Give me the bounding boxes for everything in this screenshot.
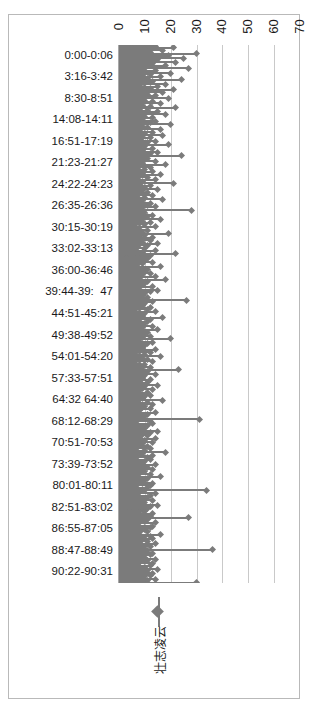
- data-point-marker: [196, 416, 203, 423]
- x-axis-tick-60: 60: [266, 14, 281, 40]
- data-point-marker: [154, 502, 161, 509]
- data-point-marker: [165, 230, 172, 237]
- data-point-marker: [157, 263, 164, 270]
- y-axis-tick-label: 49:38-49:52: [9, 330, 113, 341]
- data-line: [119, 582, 197, 583]
- data-series-layer: [119, 45, 299, 583]
- data-point-marker: [154, 326, 161, 333]
- y-axis-tick-label: 36:00-36:46: [9, 265, 113, 276]
- x-axis-tick-70: 70: [292, 14, 307, 40]
- data-point-marker: [154, 286, 161, 293]
- data-point-marker: [172, 59, 179, 66]
- data-point-marker: [172, 104, 179, 111]
- data-point-marker: [152, 308, 159, 315]
- data-point-marker: [178, 76, 185, 83]
- chart-legend: 壮志凌云: [139, 597, 179, 693]
- data-point-marker: [167, 70, 174, 77]
- y-axis-tick-label: 8:30-8:51: [9, 93, 113, 104]
- data-point-marker: [154, 566, 161, 573]
- data-point-marker: [167, 335, 174, 342]
- data-point-marker: [188, 207, 195, 214]
- y-axis-tick-label: 68:12-68:29: [9, 416, 113, 427]
- data-point-marker: [162, 81, 169, 88]
- data-point-marker: [165, 95, 172, 102]
- data-point-marker: [167, 121, 174, 128]
- data-point-marker: [159, 196, 166, 203]
- y-axis-tick-label: 0:00-0:06: [9, 50, 113, 61]
- data-point-marker: [165, 141, 172, 148]
- data-point-marker: [159, 397, 166, 404]
- data-point-marker: [162, 161, 169, 168]
- data-point-marker: [183, 297, 190, 304]
- y-axis-tick-label: 54:01-54:20: [9, 351, 113, 362]
- data-point-marker: [193, 50, 200, 57]
- chart-frame: 010203040506070 0:00-0:063:16-3:428:30-8…: [8, 14, 300, 699]
- y-axis-tick-label: 39:44-39: 47: [9, 286, 113, 297]
- y-axis-tick-label: 30:15-30:19: [9, 222, 113, 233]
- data-point-marker: [193, 579, 200, 583]
- data-point-marker: [162, 111, 169, 118]
- y-axis-tick-label: 90:22-90:31: [9, 566, 113, 577]
- x-axis-tick-0: 0: [111, 14, 126, 40]
- y-axis-tick-label: 88:47-88:49: [9, 545, 113, 556]
- data-point-marker: [170, 180, 177, 187]
- y-axis-tick-label: 3:16-3:42: [9, 71, 113, 82]
- y-axis-tick-label: 86:55-87:05: [9, 523, 113, 534]
- y-axis-tick-label: 80:01-80:11: [9, 480, 113, 491]
- data-point-marker: [154, 428, 161, 435]
- data-point-marker: [178, 152, 185, 159]
- data-point-marker: [162, 276, 169, 283]
- data-point-marker: [175, 366, 182, 373]
- data-point-marker: [159, 314, 166, 321]
- data-point-marker: [180, 54, 187, 61]
- data-point-marker: [154, 381, 161, 388]
- y-axis-tick-label: 21:23-21:27: [9, 157, 113, 168]
- data-point-marker: [154, 186, 161, 193]
- data-point-marker: [152, 223, 159, 230]
- legend-label: 壮志凌云: [151, 612, 168, 688]
- data-point-marker: [209, 546, 216, 553]
- y-axis-tick-label: 82:51-83:02: [9, 502, 113, 513]
- x-axis-tick-10: 10: [136, 14, 151, 40]
- y-axis-tick-label: 70:51-70:53: [9, 437, 113, 448]
- data-point-marker: [157, 473, 164, 480]
- plot-area: [118, 45, 299, 583]
- y-axis-tick-label: 73:39-73:52: [9, 459, 113, 470]
- data-point-marker: [152, 371, 159, 378]
- x-axis-tick-20: 20: [162, 14, 177, 40]
- data-point-marker: [157, 531, 164, 538]
- y-axis-tick-label: 57:33-57:51: [9, 373, 113, 384]
- data-point-marker: [170, 45, 177, 51]
- data-point-marker: [203, 487, 210, 494]
- data-point-marker: [152, 409, 159, 416]
- y-axis-tick-label: 16:51-17:19: [9, 136, 113, 147]
- data-point-marker: [159, 132, 166, 139]
- x-axis-tick-40: 40: [214, 14, 229, 40]
- y-axis-tick-label: 33:02-33:13: [9, 243, 113, 254]
- data-point-marker: [170, 86, 177, 93]
- y-axis-tick-label: 44:51-45:21: [9, 308, 113, 319]
- x-axis-tick-50: 50: [240, 14, 255, 40]
- y-axis-tick-label: 26:35-26:36: [9, 200, 113, 211]
- y-axis-tick-label: 14:08-14:11: [9, 114, 113, 125]
- x-axis-tick-30: 30: [188, 14, 203, 40]
- data-point-marker: [162, 449, 169, 456]
- y-axis-tick-label: 24:22-24:23: [9, 179, 113, 190]
- data-point-marker: [157, 353, 164, 360]
- data-point-marker: [172, 250, 179, 257]
- data-point-marker: [185, 514, 192, 521]
- y-axis-tick-label: 64:32 64:40: [9, 394, 113, 405]
- data-point-marker: [185, 65, 192, 72]
- data-point-marker: [157, 216, 164, 223]
